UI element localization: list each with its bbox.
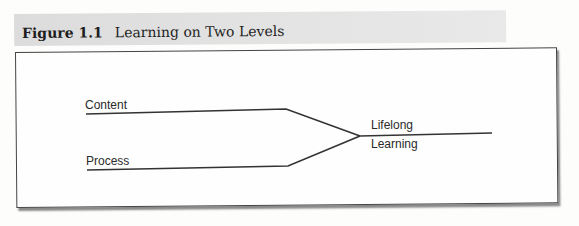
lifelong-label: Lifelong (371, 118, 413, 132)
learning-label: Learning (371, 137, 418, 151)
convergence-diagram: Content Process Lifelong Learning (0, 0, 579, 226)
lifelong-learning-line (360, 133, 492, 136)
content-line (86, 109, 360, 136)
content-label: Content (85, 98, 128, 112)
process-label: Process (86, 154, 129, 168)
